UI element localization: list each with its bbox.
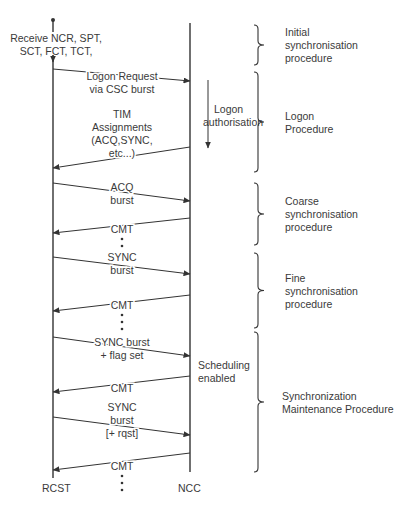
procedure-braces: InitialsynchronisationprocedureLogonProc… [254,25,394,472]
message-label-line: burst [110,264,133,276]
message-label-line: + flag set [101,349,144,361]
message-label-line: CMT [111,382,134,394]
ellipsis-dot [121,245,124,248]
curly-brace [254,253,264,328]
message-cmt-1: CMT [53,218,190,254]
ellipsis-dot [121,475,124,478]
procedure-label-line: procedure [285,298,332,310]
procedure-logon: LogonProcedure [254,72,334,172]
rcst-label: RCST [42,482,71,494]
message-acq-burst: ACQburst [53,181,190,206]
message-cmt-4: CMT [53,453,190,491]
message-label-line: SYNC [107,401,137,413]
message-label-line: SYNC burst [94,336,150,348]
logon-authorisation-line-2: authorisation [203,116,263,128]
procedure-label-line: procedure [285,52,332,64]
message-label-line: TIM [113,108,131,120]
scheduling-enabled-line-2: enabled [198,372,236,384]
message-label-line: SYNC [107,251,137,263]
procedure-label-line: Fine [285,272,306,284]
ellipsis-dot [121,238,124,241]
ellipsis-dot [121,321,124,324]
procedure-label-line: Synchronization [282,390,357,402]
ellipsis-dot [121,489,124,492]
message-label-line: etc...) [109,147,135,159]
ellipsis-dot [121,328,124,331]
message-label-line: (ACQ,SYNC, [91,134,152,146]
message-cmt-2: CMT [53,295,190,330]
procedure-label-line: Logon [285,110,314,122]
message-cmt-3: CMT [53,376,190,394]
message-label-line: Assignments [92,121,152,133]
procedure-sync-maintenance: SynchronizationMaintenance Procedure [254,332,394,472]
message-tim-assignments: TIMAssignments(ACQ,SYNC,etc...) [53,108,190,169]
start-note-line-1: Receive NCR, SPT, [10,32,102,44]
message-label-line: CMT [111,223,134,235]
procedure-label-line: Initial [285,26,310,38]
message-label-line: via CSC burst [90,83,155,95]
message-logon-request: Logon Requestvia CSC burst [53,69,190,95]
procedure-label-line: synchronisation [285,39,358,51]
message-label-line: Logon Request [86,70,157,82]
message-label-line: CMT [111,299,134,311]
ellipsis-dot [121,482,124,485]
procedure-fine-sync: Finesynchronisationprocedure [254,253,358,328]
curly-brace [254,332,264,472]
start-note-line-2: SCT, FCT, TCT, [20,45,93,57]
sequence-diagram: Receive NCR, SPT, SCT, FCT, TCT, Logon a… [0,0,409,507]
message-label-line: burst [110,194,133,206]
procedure-label-line: Procedure [285,123,334,135]
procedure-label-line: procedure [285,221,332,233]
curly-brace [254,183,264,245]
start-note: Receive NCR, SPT, SCT, FCT, TCT, [10,32,102,57]
logon-authorisation-line-1: Logon [214,103,243,115]
curly-brace [254,25,264,65]
messages: Logon Requestvia CSC burstTIMAssignments… [53,69,190,491]
message-label-line: [+ rqst] [106,427,138,439]
procedure-label-line: Maintenance Procedure [282,403,394,415]
message-label-line: ACQ [111,181,134,193]
procedure-label-line: synchronisation [285,285,358,297]
procedure-initial-sync: Initialsynchronisationprocedure [254,25,358,65]
message-label-line: CMT [111,460,134,472]
message-label-line: burst [110,414,133,426]
ncc-note-logon-authorisation: Logon authorisation [203,80,263,148]
scheduling-enabled-line-1: Scheduling [198,359,250,371]
message-sync-burst-1: SYNCburst [53,251,190,276]
procedure-label-line: synchronisation [285,208,358,220]
ncc-label: NCC [178,482,201,494]
ellipsis-dot [121,314,124,317]
message-sync-burst-flag: SYNC burst+ flag set [53,336,190,361]
message-sync-burst-rqst: SYNCburst[+ rqst] [53,401,190,439]
procedure-coarse-sync: Coarsesynchronisationprocedure [254,183,358,245]
procedure-label-line: Coarse [285,195,319,207]
ncc-note-scheduling-enabled: Scheduling enabled [198,359,250,384]
